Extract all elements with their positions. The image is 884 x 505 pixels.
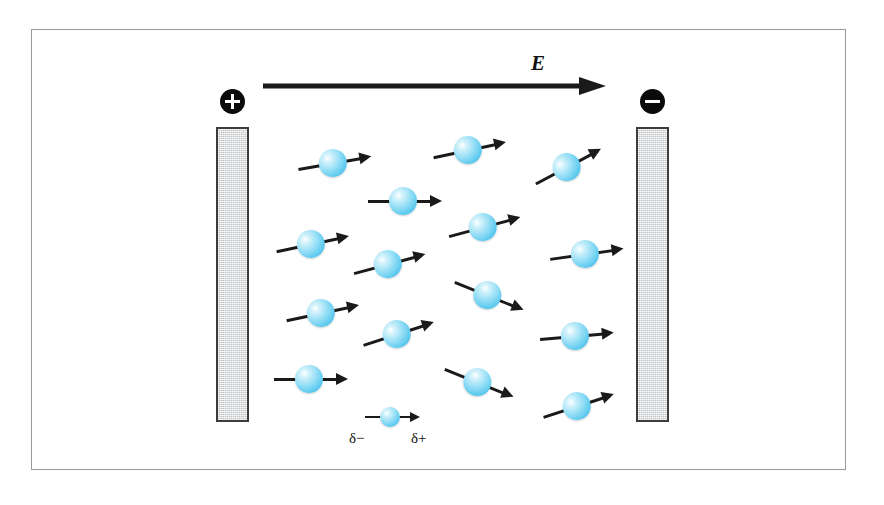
polar-molecule	[536, 314, 613, 360]
molecule-sphere	[559, 388, 594, 423]
figure-canvas: E δ− δ+	[0, 0, 884, 505]
molecule-sphere	[295, 365, 323, 393]
molecule-sphere	[569, 238, 601, 270]
dipole-arrow-head	[601, 327, 614, 340]
dipole-arrow-head	[507, 211, 522, 226]
molecule-sphere	[459, 364, 495, 400]
polar-molecule	[356, 305, 439, 366]
dipole-arrow-head	[421, 316, 436, 331]
molecule-sphere	[469, 277, 505, 313]
polar-molecule	[445, 264, 529, 329]
polar-molecule	[525, 133, 609, 203]
molecule-sphere	[451, 133, 484, 166]
polar-molecule	[366, 182, 440, 222]
polar-molecule	[281, 287, 362, 342]
dipole-arrow-head	[588, 144, 604, 160]
dipole-arrow-head	[358, 150, 372, 164]
molecule-sphere	[548, 148, 586, 186]
dipole-arrow-head	[412, 248, 427, 263]
polar-molecule	[271, 218, 352, 273]
molecule-sphere	[294, 227, 327, 260]
dipole-arrow-head	[430, 195, 442, 207]
molecule-sphere	[317, 147, 349, 179]
polar-molecule	[442, 199, 524, 257]
molecule-sphere	[560, 321, 590, 351]
polar-molecule	[435, 351, 519, 416]
dipole-arrow-head	[611, 243, 625, 257]
dipole-arrow-head	[601, 388, 616, 403]
molecule-sphere	[304, 296, 337, 329]
polar-molecule	[347, 236, 429, 294]
molecule-sphere	[380, 407, 400, 427]
molecule-sphere	[371, 247, 405, 281]
molecule-glyph	[363, 403, 419, 433]
dipole-arrow-head	[336, 373, 348, 385]
dipole-arrow-head	[410, 412, 420, 422]
legend-delta-plus-label: δ+	[411, 430, 427, 447]
polar-molecule	[272, 360, 346, 400]
figure-frame: E δ− δ+	[31, 29, 846, 470]
molecule-sphere	[389, 187, 417, 215]
legend-delta-minus-label: δ−	[349, 430, 365, 447]
dipole-arrow-head	[510, 300, 526, 316]
polar-molecule	[293, 138, 373, 190]
dipole-arrow-head	[493, 136, 507, 150]
dipole-arrow-head	[336, 230, 350, 244]
polar-molecule	[428, 124, 509, 179]
molecule-layer	[32, 30, 845, 469]
molecule-sphere	[379, 316, 414, 351]
dipole-arrow-head	[500, 387, 516, 403]
polar-molecule	[536, 377, 619, 438]
molecule-sphere	[466, 210, 500, 244]
polar-molecule	[546, 230, 625, 280]
dipole-arrow-head	[346, 299, 360, 313]
